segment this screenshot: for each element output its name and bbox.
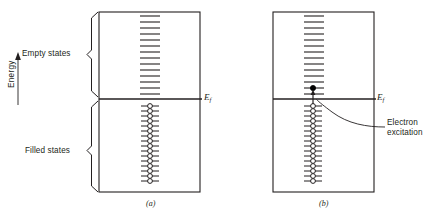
panel-caption-b: (b): [319, 199, 329, 209]
brace-filled-states: [87, 101, 98, 192]
empty-states-label: Empty states: [22, 49, 71, 59]
filled-states-label: Filled states: [25, 146, 70, 156]
electron-excitation-line1: Electron: [387, 118, 418, 127]
fermi-energy-label-panel-b: Ef: [377, 92, 385, 104]
fermi-subscript-b: f: [383, 96, 385, 103]
panel-a: [99, 12, 202, 192]
panel-b-vacancy: [304, 104, 322, 109]
electron-excitation-line2: excitation: [387, 128, 423, 137]
fermi-energy-label-panel-a: Ef: [204, 92, 212, 104]
panel-b-box: [273, 12, 374, 192]
panel-a-filled-states: [141, 104, 159, 184]
excitation-leader-line: [317, 100, 386, 128]
panel-a-empty-states: [140, 16, 160, 94]
panel-b-filled-states: [304, 109, 322, 184]
panel-caption-a: (a): [146, 199, 156, 209]
electron-excitation-annotation: Electronexcitation: [387, 118, 423, 139]
energy-band-figure: Energy Empty states Filled states Ef Ef …: [0, 0, 438, 220]
energy-axis-label: Energy: [7, 28, 17, 88]
panel-b: [273, 12, 385, 192]
fermi-subscript-a: f: [210, 96, 212, 103]
panel-b-empty-states: [304, 16, 324, 94]
panel-b-excitation-arrow: [311, 90, 316, 105]
brace-empty-states: [87, 12, 98, 97]
figure-canvas: [0, 0, 438, 220]
